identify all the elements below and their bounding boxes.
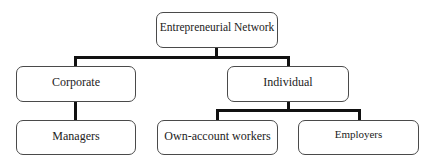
org-hierarchy-diagram: Entrepreneurial Network Corporate Indivi…	[0, 0, 432, 164]
connector-level2-bar	[216, 109, 361, 112]
connector-to-employers	[358, 109, 361, 120]
connector-level1-bar	[74, 56, 290, 59]
node-entrepreneurial-network: Entrepreneurial Network	[156, 12, 278, 48]
node-label: Employers	[335, 127, 383, 141]
node-label: Managers	[52, 129, 99, 143]
node-individual: Individual	[227, 66, 349, 102]
node-label: Entrepreneurial Network	[160, 20, 275, 34]
node-employers: Employers	[298, 120, 419, 155]
node-label: Own-account workers	[164, 129, 270, 143]
node-corporate: Corporate	[16, 66, 136, 102]
connector-to-corporate	[74, 56, 77, 66]
node-label: Individual	[263, 75, 312, 89]
node-label: Corporate	[52, 75, 100, 89]
node-own-account-workers: Own-account workers	[157, 120, 278, 155]
connector-corporate-to-managers	[74, 101, 77, 120]
node-managers: Managers	[16, 120, 136, 155]
connector-to-own-account-workers	[216, 109, 219, 120]
connector-to-individual	[287, 56, 290, 66]
